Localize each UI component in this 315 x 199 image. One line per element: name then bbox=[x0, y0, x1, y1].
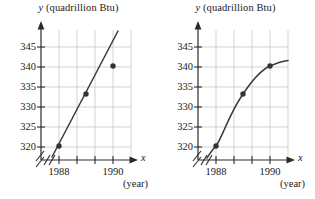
chart-right-xtick-1988: 1988 bbox=[199, 166, 233, 177]
chart-right-ytick-345: 345 bbox=[167, 41, 193, 52]
chart-left-data-points bbox=[56, 63, 115, 148]
chart-right-ytick-330: 330 bbox=[167, 101, 193, 112]
chart-right-xtick-1990: 1990 bbox=[253, 166, 287, 177]
chart-right-ytick-325: 325 bbox=[167, 121, 193, 132]
chart-figure-right: y (quadrillion Btu) bbox=[157, 0, 314, 199]
chart-right-x-axis-units: (year) bbox=[280, 178, 305, 189]
chart-left-ytick-345: 345 bbox=[10, 41, 36, 52]
data-point bbox=[240, 91, 245, 96]
chart-right-plot bbox=[157, 0, 314, 199]
data-point bbox=[56, 143, 61, 148]
chart-right-x-axis bbox=[198, 157, 295, 164]
chart-left-xtick-1990: 1990 bbox=[96, 166, 130, 177]
chart-left-ytick-340: 340 bbox=[10, 61, 36, 72]
chart-right-gridlines-horizontal bbox=[198, 47, 288, 147]
chart-left-gridlines-horizontal bbox=[41, 47, 131, 147]
chart-left-y-axis-break bbox=[36, 151, 44, 167]
chart-left-ytick-320: 320 bbox=[10, 141, 36, 152]
chart-left-x-axis bbox=[41, 157, 138, 164]
data-point bbox=[83, 91, 88, 96]
chart-right-x-axis-symbol: x bbox=[298, 152, 303, 163]
chart-left-x-axis-symbol: x bbox=[141, 152, 146, 163]
chart-figure-left: y (quadrillion Btu) bbox=[0, 0, 157, 199]
chart-right-fit-curve bbox=[207, 61, 288, 159]
chart-right-ytick-340: 340 bbox=[167, 61, 193, 72]
chart-right-gridlines-vertical bbox=[216, 30, 288, 160]
chart-right-ytick-320: 320 bbox=[167, 141, 193, 152]
chart-right-ytick-335: 335 bbox=[167, 81, 193, 92]
chart-right-y-axis bbox=[195, 21, 202, 160]
chart-left-xtick-1988: 1988 bbox=[42, 166, 76, 177]
data-point bbox=[213, 143, 218, 148]
chart-left-ytick-335: 335 bbox=[10, 81, 36, 92]
chart-left-ytick-330: 330 bbox=[10, 101, 36, 112]
chart-left-plot bbox=[0, 0, 157, 199]
chart-left-y-axis bbox=[38, 21, 45, 160]
chart-left-x-axis-units: (year) bbox=[123, 178, 148, 189]
chart-right-y-axis-break bbox=[193, 151, 201, 167]
chart-left-gridlines-vertical bbox=[59, 30, 131, 160]
chart-left-ytick-325: 325 bbox=[10, 121, 36, 132]
data-point bbox=[267, 63, 272, 68]
data-point bbox=[110, 63, 115, 68]
